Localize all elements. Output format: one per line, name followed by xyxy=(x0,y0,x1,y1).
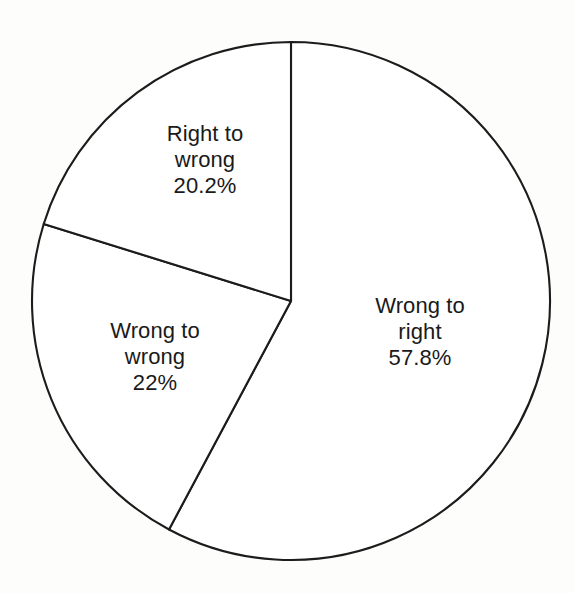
pie-slice-label-line1: Wrong to xyxy=(110,318,200,344)
pie-slice-label-wrong-to-right: Wrong to right 57.8% xyxy=(375,293,465,371)
pie-chart-svg xyxy=(0,0,575,593)
pie-slice-label-line1: Right to xyxy=(167,121,244,147)
pie-slice-label-wrong-to-wrong: Wrong to wrong 22% xyxy=(110,318,200,396)
pie-slice-label-line2: wrong xyxy=(110,344,200,370)
pie-slice-label-line2: wrong xyxy=(167,147,244,173)
pie-slice-label-right-to-wrong: Right to wrong 20.2% xyxy=(167,121,244,199)
pie-slice-value: 22% xyxy=(110,370,200,396)
pie-slice-group xyxy=(32,42,550,560)
pie-slice-value: 57.8% xyxy=(375,345,465,371)
pie-slice-label-line1: Wrong to xyxy=(375,293,465,319)
pie-slice-value: 20.2% xyxy=(167,173,244,199)
pie-chart: Wrong to right 57.8% Wrong to wrong 22% … xyxy=(0,0,575,593)
pie-slice-label-line2: right xyxy=(375,319,465,345)
